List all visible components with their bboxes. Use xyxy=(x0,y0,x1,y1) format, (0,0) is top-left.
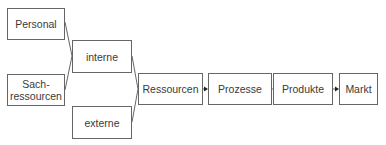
node-label: Sach- ressourcen xyxy=(10,78,62,102)
node-sachressourcen: Sach- ressourcen xyxy=(7,74,65,106)
node-label: Ressourcen xyxy=(142,83,198,95)
node-label: Personal xyxy=(15,18,56,30)
node-label: interne xyxy=(86,51,118,63)
node-produkte: Produkte xyxy=(273,73,333,105)
node-interne: interne xyxy=(72,40,132,73)
node-personal: Personal xyxy=(7,8,65,40)
node-label: Markt xyxy=(345,83,371,95)
node-markt: Markt xyxy=(339,73,378,105)
node-prozesse: Prozesse xyxy=(208,73,272,105)
node-label: externe xyxy=(84,117,119,129)
node-externe: externe xyxy=(72,106,132,139)
node-ressourcen: Ressourcen xyxy=(138,73,203,105)
node-label: Prozesse xyxy=(218,83,262,95)
node-label: Produkte xyxy=(282,83,324,95)
